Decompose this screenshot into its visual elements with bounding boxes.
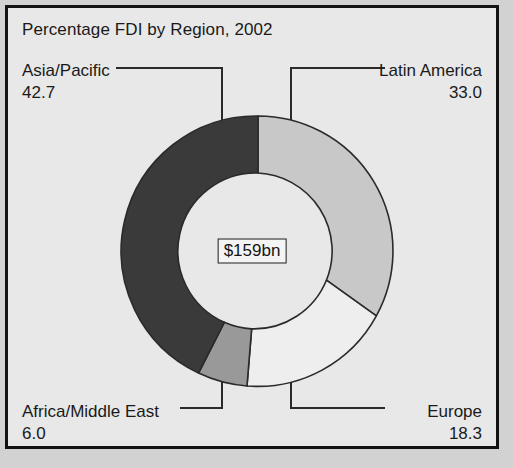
callout-latin-america: Latin America 33.0 [379,60,482,105]
callout-africa-middleeast-value: 6.0 [22,423,159,445]
callout-latin-america-label: Latin America [379,61,482,80]
callout-europe: Europe 18.3 [427,401,482,446]
callout-africa-middleeast: Africa/Middle East 6.0 [22,401,159,446]
leader-line-africa-middleeast [180,378,222,408]
callout-asia-pacific: Asia/Pacific 42.7 [22,60,110,105]
callout-latin-america-value: 33.0 [379,82,482,104]
leader-line-asia-pacific [116,68,222,120]
callout-asia-pacific-value: 42.7 [22,82,110,104]
leader-line-europe [291,378,385,408]
chart-frame: Percentage FDI by Region, 2002 $159bn As… [5,5,499,449]
callout-africa-middleeast-label: Africa/Middle East [22,402,159,421]
leader-line-latin-america [291,68,385,120]
callout-asia-pacific-label: Asia/Pacific [22,61,110,80]
callout-europe-value: 18.3 [427,423,482,445]
center-value-label: $159bn [218,239,287,264]
callout-europe-label: Europe [427,402,482,421]
